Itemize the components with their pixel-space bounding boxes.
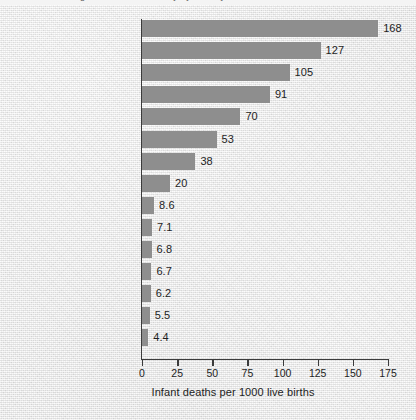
bar-value-label: 8.6 <box>159 197 175 214</box>
cropped-caption-text: Figure — Infant mortality by country <box>72 0 225 1</box>
bar-value-label: 7.1 <box>157 219 173 236</box>
x-tick-label: 25 <box>171 367 183 379</box>
x-tick-label: 175 <box>379 367 397 379</box>
x-tick-label: 75 <box>242 367 254 379</box>
bar <box>142 153 195 170</box>
bar <box>142 263 151 280</box>
x-tick-mark <box>142 360 143 366</box>
bar <box>142 175 170 192</box>
bar-value-label: 6.7 <box>156 263 172 280</box>
bar-value-label: 6.2 <box>156 285 172 302</box>
x-tick-mark <box>247 360 248 366</box>
bar <box>142 20 378 37</box>
x-tick-mark <box>388 360 389 366</box>
x-tick-label: 150 <box>344 367 362 379</box>
bar <box>142 64 290 81</box>
x-axis-title: Infant deaths per 1000 live births <box>0 386 416 398</box>
bar-value-label: 168 <box>383 20 402 37</box>
x-tick-label: 50 <box>206 367 218 379</box>
bar-value-label: 127 <box>326 42 345 59</box>
infant-mortality-bar-chart: Afghanistan168Ethiopia127Haiti105India91… <box>0 5 416 420</box>
bar <box>142 329 148 346</box>
x-tick-mark <box>283 360 284 366</box>
x-tick-label: 100 <box>274 367 292 379</box>
bar-value-label: 6.8 <box>157 241 173 258</box>
bar <box>142 131 217 148</box>
bar <box>142 219 152 236</box>
bar-value-label: 53 <box>222 131 234 148</box>
plot-area: Afghanistan168Ethiopia127Haiti105India91… <box>0 5 416 420</box>
bar-value-label: 20 <box>175 175 187 192</box>
bar-value-label: 105 <box>295 64 314 81</box>
bar <box>142 307 150 324</box>
x-tick-mark <box>318 360 319 366</box>
x-axis-title-text: Infant deaths per 1000 live births <box>151 386 314 398</box>
bar-value-label: 38 <box>200 153 212 170</box>
chart-page: Figure — Infant mortality by country Afg… <box>0 0 416 420</box>
bar-value-label: 4.4 <box>153 329 169 346</box>
x-tick-mark <box>177 360 178 366</box>
bar <box>142 197 154 214</box>
x-tick-label: 0 <box>139 367 145 379</box>
bar-value-label: 91 <box>275 86 287 103</box>
bar <box>142 285 151 302</box>
bar <box>142 108 240 125</box>
bar <box>142 86 270 103</box>
x-tick-mark <box>212 360 213 366</box>
x-tick-mark <box>353 360 354 366</box>
bar <box>142 42 321 59</box>
bar <box>142 241 152 258</box>
bar-value-label: 5.5 <box>155 307 171 324</box>
x-tick-label: 125 <box>309 367 327 379</box>
bar-value-label: 70 <box>245 108 257 125</box>
